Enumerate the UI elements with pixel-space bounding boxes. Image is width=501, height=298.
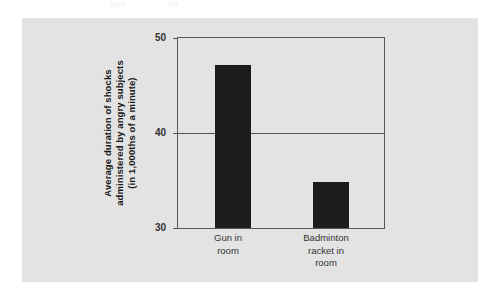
x-label-badminton-line-3: room bbox=[263, 257, 389, 270]
bar-badminton-racket-in-room bbox=[313, 182, 349, 228]
x-label-badminton-line-2: racket in bbox=[263, 245, 389, 258]
x-label-badminton-line-1: Badminton bbox=[263, 232, 389, 245]
scan-artifact-top-right bbox=[168, 2, 178, 6]
y-tick-label-40: 40 bbox=[155, 128, 166, 138]
y-tick-label-50: 50 bbox=[155, 33, 166, 43]
y-axis-title-line-2: administered by angry subjects bbox=[114, 60, 126, 206]
scan-artifact-top-left bbox=[110, 2, 126, 7]
bar-gun-in-room bbox=[215, 65, 251, 228]
y-tick-40: 40 bbox=[173, 133, 178, 134]
y-tick-30: 30 bbox=[173, 228, 178, 229]
x-label-badminton-racket-in-room: Badminton racket in room bbox=[263, 232, 389, 270]
y-axis-title: Average duration of shocks administered … bbox=[92, 37, 148, 229]
y-axis-title-line-3: (in 1,000ths of a minute) bbox=[126, 60, 138, 206]
y-axis-title-line-1: Average duration of shocks bbox=[102, 60, 114, 206]
gridline-40 bbox=[178, 133, 384, 134]
chart-figure-panel: Average duration of shocks administered … bbox=[22, 18, 478, 282]
plot-area: 50 40 30 bbox=[177, 37, 385, 229]
y-tick-50: 50 bbox=[173, 38, 178, 39]
